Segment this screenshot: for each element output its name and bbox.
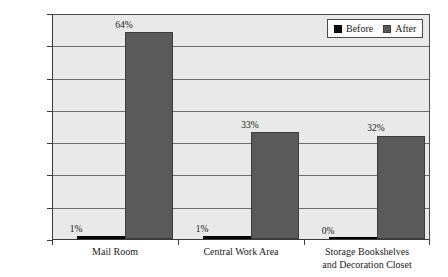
- x-category-label-storage-bookshelves-line2: and Decoration Closet: [298, 258, 436, 271]
- x-category-label-mail-room: Mail Room: [52, 245, 178, 258]
- gridline-10: [53, 208, 430, 209]
- legend-label-before: Before: [346, 23, 373, 34]
- gridline-20: [53, 175, 430, 176]
- bar-after-storage-bookshelves[interactable]: [377, 136, 425, 239]
- y-tick-mark-30: [47, 143, 52, 144]
- bar-value-label-after-storage-bookshelves: 32%: [352, 123, 400, 133]
- y-tick-mark-60: [47, 46, 52, 47]
- plot-frame-right: [429, 14, 430, 241]
- gridline-40: [53, 111, 430, 112]
- gridline-50: [53, 79, 430, 80]
- y-tick-mark-70: [47, 14, 52, 15]
- bar-after-central-work-area[interactable]: [251, 132, 299, 239]
- legend-entry-after[interactable]: After: [383, 23, 416, 34]
- x-category-label-central-work-area: Central Work Area: [178, 245, 304, 258]
- x-category-label-central-work-area-line1: Central Work Area: [178, 245, 304, 258]
- bar-value-label-after-central-work-area: 33%: [226, 120, 274, 130]
- legend-entry-before[interactable]: Before: [334, 23, 373, 34]
- bar-value-label-before-storage-bookshelves: 0%: [304, 226, 352, 236]
- x-category-label-storage-bookshelves: Storage Bookshelves and Decoration Close…: [298, 245, 436, 271]
- legend-label-after: After: [395, 23, 416, 34]
- bar-chart: 70% 60% 50% 40% 30% 20% 10% 0% 1% 64% 1%…: [0, 0, 448, 277]
- gridline-60: [53, 46, 430, 47]
- legend: Before After: [327, 19, 423, 38]
- bar-after-mail-room[interactable]: [125, 32, 173, 239]
- plot-frame-top: [52, 14, 430, 15]
- bar-before-mail-room[interactable]: [77, 236, 125, 239]
- legend-swatch-after-icon: [383, 25, 391, 33]
- y-tick-mark-10: [47, 208, 52, 209]
- y-tick-mark-20: [47, 175, 52, 176]
- bar-before-storage-bookshelves[interactable]: [329, 237, 377, 239]
- y-tick-mark-50: [47, 79, 52, 80]
- x-category-label-mail-room-line1: Mail Room: [52, 245, 178, 258]
- x-category-label-storage-bookshelves-line1: Storage Bookshelves: [298, 245, 436, 258]
- bar-value-label-before-central-work-area: 1%: [178, 224, 226, 234]
- bar-before-central-work-area[interactable]: [203, 236, 251, 239]
- bar-value-label-after-mail-room: 64%: [100, 20, 148, 30]
- y-tick-mark-40: [47, 111, 52, 112]
- legend-swatch-before-icon: [334, 25, 342, 33]
- bar-value-label-before-mail-room: 1%: [52, 224, 100, 234]
- gridline-30: [53, 143, 430, 144]
